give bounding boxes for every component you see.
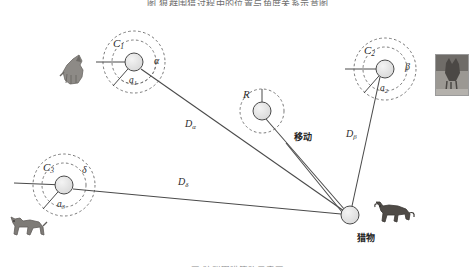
- node-label-c3-sub: 3: [50, 166, 54, 175]
- line-move-to-prey: [286, 143, 342, 212]
- line-d-beta: [352, 77, 380, 206]
- distance-label-d-alpha: Dα: [185, 119, 196, 131]
- d-delta-sub: δ: [185, 181, 188, 188]
- figure-bottom-caption: 图 狼群围猎策略示意图: [0, 263, 475, 267]
- angle-label-beta: β: [405, 62, 410, 72]
- radius-label-a2: a2: [380, 84, 388, 94]
- distance-label-d-beta: Dβ: [346, 129, 357, 141]
- angle-label-delta: δ: [82, 165, 87, 175]
- prey-label: 猎物: [357, 234, 375, 243]
- d-alpha-sub: α: [192, 123, 196, 130]
- distance-lines: [73, 69, 380, 214]
- angle-label-alpha: α: [154, 56, 159, 66]
- node-c3: [55, 176, 73, 194]
- radius-label-a1-sub: 1: [134, 79, 137, 86]
- distance-label-d-delta: Dδ: [178, 177, 188, 189]
- node-label-c2-sub: 2: [371, 49, 375, 58]
- node-c2: [376, 60, 394, 78]
- radius-label-a2-sub: 2: [385, 87, 388, 94]
- wolf-standing-icon: [6, 212, 48, 242]
- radius-label-a1: a1: [129, 76, 137, 86]
- d-beta-sub: β: [353, 133, 356, 140]
- node-r: [253, 102, 271, 120]
- node-prey: [341, 206, 359, 224]
- node-label-c1-sub: 1: [120, 42, 124, 51]
- bison-icon: [372, 198, 416, 230]
- node-label-c2: C2: [364, 45, 375, 58]
- radius-label-a3-sub: 3: [62, 203, 65, 210]
- wolf-howling-icon: [58, 52, 88, 86]
- line-d-delta: [73, 189, 341, 214]
- radius-label-a3: a3: [57, 200, 65, 210]
- node-label-c1: C1: [113, 38, 124, 51]
- wolf-photo-icon: [435, 54, 469, 96]
- figure-canvas: 图 狼群围猎过程中的位置与角度关系示意图: [0, 0, 475, 267]
- move-annotation: 移动: [294, 133, 312, 142]
- node-label-r: R: [243, 89, 250, 100]
- node-c1: [125, 53, 143, 71]
- node-label-c3: C3: [43, 162, 54, 175]
